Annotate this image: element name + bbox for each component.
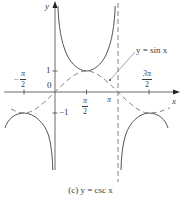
x-tick-sign-neg: −: [14, 76, 19, 84]
x-tick-label-pi-2: π 2: [82, 97, 88, 116]
y-tick-label-neg1: −1: [59, 108, 69, 117]
sin-annotation: y = sin x: [136, 46, 167, 55]
annotation-dot: [109, 79, 111, 81]
y-axis-arrow-icon: [53, 1, 58, 8]
x-tick-label-neg-pi-2: π 2: [20, 70, 26, 89]
x-axis-label: x: [172, 97, 176, 106]
x-tick-label-3pi-2: 3π 2: [142, 70, 152, 89]
csc-branch-middle: [58, 6, 115, 71]
y-tick-label-1: 1: [46, 66, 51, 75]
y-axis-label: y: [45, 2, 49, 11]
x-tick-label-pi: π: [107, 96, 111, 104]
csc-plot: [0, 0, 181, 201]
csc-branch-right: [121, 113, 168, 170]
origin-label: 0: [47, 81, 52, 90]
annotation-pointer: [110, 52, 135, 80]
figure-caption: (c) y = csc x: [0, 185, 181, 195]
csc-branch-left: [5, 113, 53, 170]
x-axis-arrow-icon: [173, 90, 180, 95]
